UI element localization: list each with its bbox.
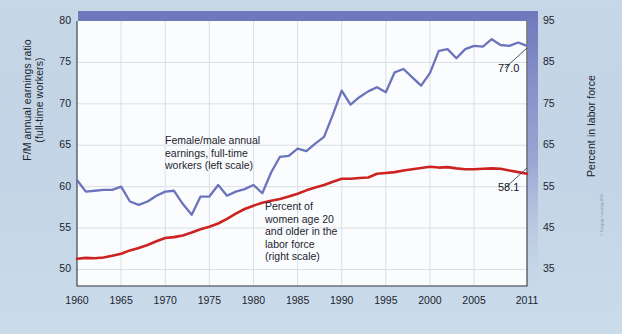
x-tick-2000: 2000 xyxy=(408,294,452,306)
x-tick-1990: 1990 xyxy=(320,294,364,306)
x-tick-1975: 1975 xyxy=(187,294,231,306)
x-tick-2011: 2011 xyxy=(505,294,549,306)
y-tick-right-75: 75 xyxy=(543,97,577,109)
y-tick-left-50: 50 xyxy=(31,262,71,274)
edge-credit-text: © Cengage Learning 2013 xyxy=(600,140,604,236)
series-annotation-earnings-ratio: Female/male annual earnings, full-time w… xyxy=(165,134,260,172)
end-value-label-earnings-ratio: 77.0 xyxy=(498,62,519,74)
y-tick-right-45: 45 xyxy=(543,221,577,233)
y-tick-left-60: 60 xyxy=(31,180,71,192)
y-tick-right-85: 85 xyxy=(543,55,577,67)
y-tick-left-75: 75 xyxy=(31,55,71,67)
y-tick-left-80: 80 xyxy=(31,14,71,26)
x-tick-1965: 1965 xyxy=(99,294,143,306)
y-tick-right-35: 35 xyxy=(543,262,577,274)
x-tick-1995: 1995 xyxy=(364,294,408,306)
chart-canvas xyxy=(0,0,622,334)
x-tick-1985: 1985 xyxy=(276,294,320,306)
y-tick-right-65: 65 xyxy=(543,138,577,150)
chart-figure: F/M annual earnings ratio (full-time wor… xyxy=(0,0,622,334)
y-tick-left-70: 70 xyxy=(31,97,71,109)
y-axis-right-title: Percent in labor force xyxy=(585,43,597,209)
decorative-top-bar xyxy=(78,11,538,21)
x-tick-1970: 1970 xyxy=(143,294,187,306)
x-tick-2005: 2005 xyxy=(452,294,496,306)
decorative-right-bar xyxy=(528,11,538,286)
series-annotation-labor-force: Percent of women age 20 and older in the… xyxy=(265,200,337,263)
y-tick-left-65: 65 xyxy=(31,138,71,150)
y-tick-right-95: 95 xyxy=(543,14,577,26)
x-tick-1980: 1980 xyxy=(231,294,275,306)
end-value-label-labor-force: 58.1 xyxy=(498,181,519,193)
x-tick-1960: 1960 xyxy=(55,294,99,306)
y-tick-right-55: 55 xyxy=(543,180,577,192)
y-tick-left-55: 55 xyxy=(31,221,71,233)
